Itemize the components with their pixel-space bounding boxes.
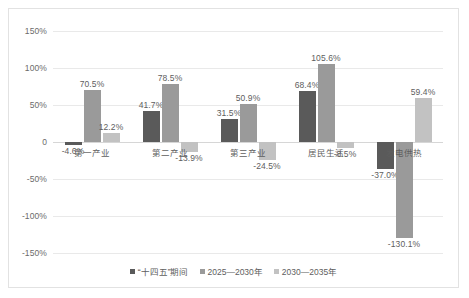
bar[interactable]: 78.5% <box>162 31 179 253</box>
legend-swatch-icon <box>274 269 279 274</box>
legend-item[interactable]: “十四五”期间 <box>130 265 189 277</box>
bar-fill <box>143 111 160 142</box>
y-axis-tick-label: -50% <box>27 174 53 184</box>
bar[interactable]: -130.1% <box>396 31 413 253</box>
legend-swatch-icon <box>200 269 205 274</box>
plot-area: 150%100%50%0-50%-100%-150%-4.6%70.5%12.2… <box>53 31 443 253</box>
bar[interactable]: -24.5% <box>259 31 276 253</box>
bar-fill <box>299 91 316 142</box>
bar[interactable]: 41.7% <box>143 31 160 253</box>
bar[interactable]: -8.5% <box>337 31 354 253</box>
bar-value-label: 70.5% <box>80 79 105 89</box>
bar-fill <box>162 84 179 142</box>
x-axis-category-label: 第一产业 <box>74 146 110 158</box>
y-axis-tick-label: 50% <box>30 100 53 110</box>
legend-swatch-icon <box>130 269 135 274</box>
y-axis-tick-label: -150% <box>22 248 53 258</box>
bar-fill <box>65 142 82 145</box>
bar[interactable]: 68.4% <box>299 31 316 253</box>
bar-fill <box>415 98 432 142</box>
y-axis-tick-label: 150% <box>25 26 53 36</box>
bar-group: 41.7%78.5%-13.9% <box>131 31 209 253</box>
legend-label: 2030—2035年 <box>282 265 337 277</box>
legend-item[interactable]: 2025—2030年 <box>200 265 263 277</box>
bar-group: 68.4%105.6%-8.5% <box>287 31 365 253</box>
bar-value-label: 59.4% <box>411 87 436 97</box>
bar[interactable]: -4.6% <box>65 31 82 253</box>
bar[interactable]: 105.6% <box>318 31 335 253</box>
bar-value-label: 41.7% <box>139 100 164 110</box>
bar-fill <box>221 119 238 142</box>
bar[interactable]: 59.4% <box>415 31 432 253</box>
bar[interactable]: 31.5% <box>221 31 238 253</box>
y-axis-tick-label: 0 <box>42 137 53 147</box>
bar-value-label: 78.5% <box>158 73 183 83</box>
bar-group: 31.5%50.9%-24.5% <box>209 31 287 253</box>
bar-fill <box>318 64 335 142</box>
bar-value-label: 68.4% <box>295 80 320 90</box>
gridline <box>53 253 443 254</box>
bar-group: -37.0%-130.1%59.4% <box>365 31 443 253</box>
chart-legend: “十四五”期间2025—2030年2030—2035年 <box>9 265 458 277</box>
bar-fill <box>84 90 101 142</box>
bar[interactable]: 70.5% <box>84 31 101 253</box>
chart-frame: 150%100%50%0-50%-100%-150%-4.6%70.5%12.2… <box>8 8 459 288</box>
bar[interactable]: -13.9% <box>181 31 198 253</box>
x-axis-category-label: 第二产业 <box>152 146 188 158</box>
bar[interactable]: -37.0% <box>377 31 394 253</box>
bar-group: -4.6%70.5%12.2% <box>53 31 131 253</box>
bar-value-label: -24.5% <box>253 161 281 171</box>
x-axis-category-label: 居民生活 <box>308 146 344 158</box>
bar-fill <box>103 133 120 142</box>
bar[interactable]: 50.9% <box>240 31 257 253</box>
y-axis-tick-label: -100% <box>22 211 53 221</box>
y-axis-tick-label: 100% <box>25 63 53 73</box>
bar-fill <box>240 104 257 142</box>
x-axis-category-label: 发电供热 <box>386 146 422 158</box>
x-axis-category-label: 第三产业 <box>230 146 266 158</box>
bar-value-label: 31.5% <box>217 108 242 118</box>
bar-value-label: 12.2% <box>99 122 124 132</box>
legend-label: 2025—2030年 <box>208 265 263 277</box>
legend-item[interactable]: 2030—2035年 <box>274 265 337 277</box>
bar-value-label: 50.9% <box>236 93 261 103</box>
bar[interactable]: 12.2% <box>103 31 120 253</box>
legend-label: “十四五”期间 <box>138 265 189 277</box>
